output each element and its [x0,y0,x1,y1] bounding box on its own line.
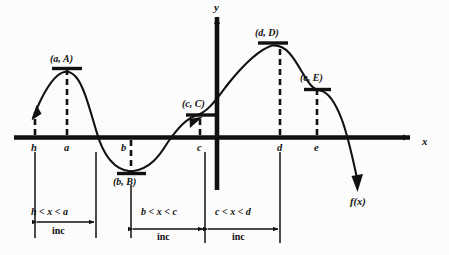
interval-range-b-c: b < x < c [141,207,177,217]
interval-range-h-a: h < x < a [31,207,68,217]
tick-label-d: d [277,143,282,154]
point-label-a-A: (a, A) [50,54,73,64]
curve-start-arrowhead [32,105,42,121]
curve-label: f(x) [350,197,366,208]
point-label-d-D: (d, D) [255,28,279,38]
point-label-c-C: (c, C) [182,99,205,109]
interval-behavior-c-d: inc [232,232,245,242]
interval-range-c-d: c < x < d [215,207,251,217]
function-curve [33,45,357,178]
interval-behavior-h-a: inc [52,226,65,236]
tick-label-c: c [197,143,202,154]
point-label-b-B: (b, B) [113,177,136,187]
point-label-e-E: (e, E) [300,73,323,83]
y-axis-label: y [214,2,219,13]
function-graph-figure: x y f(x) (a, A) (b, B) (c, C) (d, D) (e,… [0,0,449,255]
tick-label-e: e [314,143,319,154]
tick-label-a: a [64,143,69,154]
curve-end-arrowhead [352,174,364,192]
x-axis-label: x [422,136,428,147]
interval-behavior-b-c: inc [157,232,170,242]
tick-label-h: h [31,143,37,154]
tick-label-b: b [121,143,126,154]
